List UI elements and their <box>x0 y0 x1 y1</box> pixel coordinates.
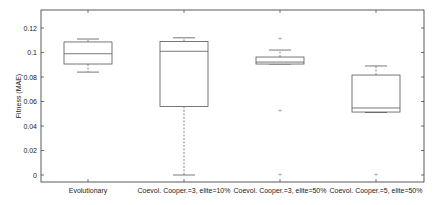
y-axis-label: Fitness (MAE) <box>15 74 23 118</box>
outlier-marker: + <box>278 171 282 177</box>
y-tick-label: 0.08 <box>23 74 37 81</box>
iqr-box <box>256 57 304 64</box>
box-1 <box>160 38 208 175</box>
plot-area: ++++ <box>41 10 424 182</box>
box-plot-chart: ++++ 00.020.040.060.080.10.12 Evolutiona… <box>0 0 436 205</box>
outlier-marker: + <box>278 35 282 41</box>
x-category-label: Coevol. Cooper.=3, elite=50% <box>233 187 326 195</box>
y-tick-label: 0.12 <box>23 25 37 32</box>
iqr-box <box>352 75 400 112</box>
y-tick-label: 0 <box>33 172 37 179</box>
y-tick-label: 0.1 <box>27 49 37 56</box>
y-tick-label: 0.06 <box>23 98 37 105</box>
outlier-marker: + <box>278 107 282 113</box>
iqr-box <box>64 42 112 64</box>
x-category-label: Evolutionary <box>69 187 108 195</box>
box-0 <box>64 39 112 72</box>
box-2: +++ <box>256 35 304 177</box>
outlier-marker: + <box>374 171 378 177</box>
x-category-label: Coevol. Cooper.=5, elite=50% <box>329 187 422 195</box>
box-3: + <box>352 66 400 177</box>
y-tick-label: 0.02 <box>23 147 37 154</box>
x-category-label: Coevol. Cooper.=3, elite=10% <box>137 187 230 195</box>
y-tick-label: 0.04 <box>23 123 37 130</box>
